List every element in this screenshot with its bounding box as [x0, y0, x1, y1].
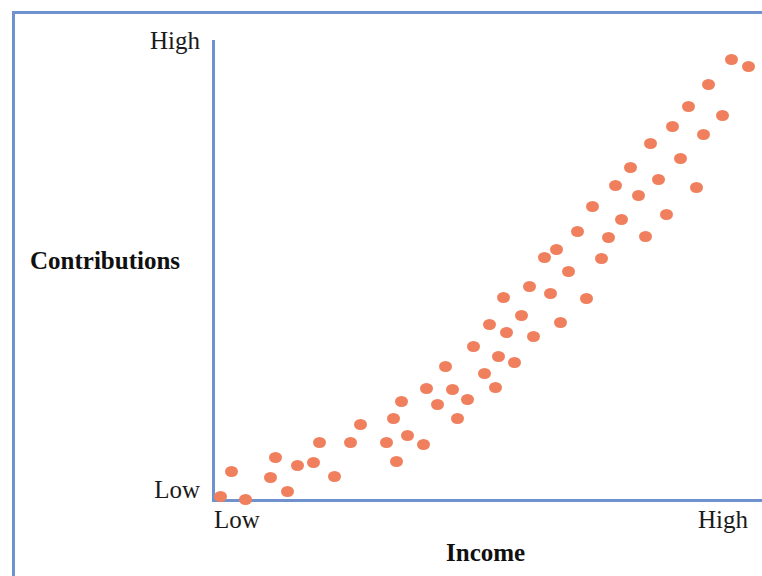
x-axis-title: Income: [446, 540, 525, 565]
scatter-plot-area: [212, 40, 762, 500]
scatter-point: [239, 494, 252, 505]
scatter-point: [387, 413, 400, 424]
scatter-point: [690, 182, 703, 193]
scatter-point: [492, 351, 505, 362]
scatter-point: [451, 413, 464, 424]
scatter-point: [660, 209, 673, 220]
x-axis-tick-low: Low: [214, 507, 260, 532]
scatter-point: [527, 331, 540, 342]
scatter-point: [550, 244, 563, 255]
scatter-point: [489, 382, 502, 393]
decorative-frame-top-rule: [12, 11, 762, 14]
x-axis-tick-high: High: [698, 507, 748, 532]
scatter-point: [538, 252, 551, 263]
scatter-point: [716, 110, 729, 121]
scatter-point: [554, 317, 567, 328]
scatter-point: [354, 419, 367, 430]
figure-container: High Low Low High Contributions Income: [0, 0, 762, 576]
scatter-point: [500, 327, 513, 338]
scatter-point: [515, 310, 528, 321]
scatter-point: [461, 394, 474, 405]
scatter-point: [291, 460, 304, 471]
scatter-point: [264, 472, 277, 483]
scatter-point: [609, 180, 622, 191]
scatter-point: [344, 437, 357, 448]
decorative-frame-left-rule: [12, 11, 15, 576]
scatter-point: [674, 153, 687, 164]
scatter-point: [632, 190, 645, 201]
scatter-point: [401, 430, 414, 441]
scatter-point: [417, 439, 430, 450]
scatter-point: [497, 292, 510, 303]
scatter-point: [580, 293, 593, 304]
scatter-point: [478, 368, 491, 379]
y-axis-tick-high: High: [150, 28, 200, 53]
scatter-point: [328, 471, 341, 482]
scatter-point: [446, 384, 459, 395]
scatter-point: [307, 457, 320, 468]
scatter-point: [544, 288, 557, 299]
scatter-point: [313, 437, 326, 448]
scatter-point: [586, 201, 599, 212]
scatter-point: [602, 232, 615, 243]
scatter-point: [395, 396, 408, 407]
scatter-point: [269, 452, 282, 463]
scatter-point: [652, 174, 665, 185]
scatter-point: [439, 361, 452, 372]
y-axis-tick-low: Low: [154, 477, 200, 502]
scatter-point: [390, 456, 403, 467]
scatter-point: [666, 121, 679, 132]
scatter-point: [214, 491, 227, 502]
scatter-point: [595, 253, 608, 264]
scatter-point: [420, 383, 433, 394]
scatter-point: [380, 437, 393, 448]
scatter-point: [225, 466, 238, 477]
y-axis-title: Contributions: [30, 248, 180, 273]
scatter-point: [281, 486, 294, 497]
scatter-point: [742, 61, 755, 72]
scatter-point: [702, 79, 715, 90]
scatter-point: [639, 231, 652, 242]
scatter-point: [562, 266, 575, 277]
scatter-point: [682, 101, 695, 112]
scatter-point: [697, 129, 710, 140]
scatter-point: [725, 54, 738, 65]
scatter-point: [624, 162, 637, 173]
scatter-point: [615, 214, 628, 225]
scatter-point: [571, 226, 584, 237]
scatter-point: [644, 138, 657, 149]
scatter-point: [431, 399, 444, 410]
scatter-point: [483, 319, 496, 330]
scatter-point: [467, 341, 480, 352]
scatter-point: [523, 281, 536, 292]
scatter-point: [508, 357, 521, 368]
